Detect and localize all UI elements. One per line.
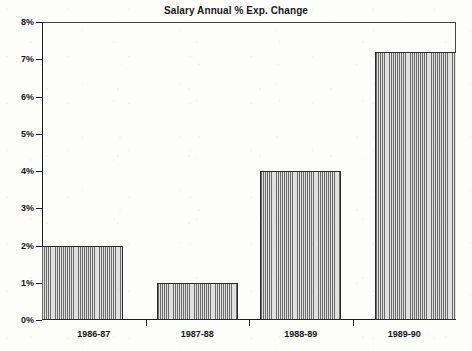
bar-1988-89 bbox=[260, 171, 341, 320]
y-axis-tick bbox=[36, 171, 42, 172]
y-axis-label: 8% bbox=[21, 17, 34, 27]
chart-screenshot: Salary Annual % Exp. Change 0%1%2%3%4%5%… bbox=[0, 0, 472, 351]
y-axis-tick bbox=[36, 320, 42, 321]
chart-title: Salary Annual % Exp. Change bbox=[0, 5, 472, 16]
y-axis-label: 7% bbox=[21, 54, 34, 64]
bar-1986-87 bbox=[42, 246, 123, 321]
y-axis-tick bbox=[36, 134, 42, 135]
y-axis-label: 5% bbox=[21, 129, 34, 139]
plot-area: 0%1%2%3%4%5%6%7%8% 1986-871987-881988-89… bbox=[42, 22, 456, 320]
x-axis-label: 1986-87 bbox=[77, 329, 110, 339]
y-axis-tick bbox=[36, 59, 42, 60]
y-axis-tick bbox=[36, 22, 42, 23]
y-axis-tick bbox=[36, 208, 42, 209]
x-axis-tick bbox=[353, 320, 354, 326]
y-axis-label: 4% bbox=[21, 166, 34, 176]
x-axis-label: 1988-89 bbox=[284, 329, 317, 339]
y-axis-tick bbox=[36, 97, 42, 98]
bar-1989-90 bbox=[375, 52, 456, 320]
x-axis-tick bbox=[249, 320, 250, 326]
bar-1987-88 bbox=[157, 283, 238, 320]
y-axis-label: 2% bbox=[21, 241, 34, 251]
y-axis-label: 3% bbox=[21, 203, 34, 213]
y-axis-label: 0% bbox=[21, 315, 34, 325]
y-axis-label: 6% bbox=[21, 92, 34, 102]
x-axis-tick bbox=[146, 320, 147, 326]
x-axis-label: 1989-90 bbox=[388, 329, 421, 339]
x-axis-label: 1987-88 bbox=[181, 329, 214, 339]
y-axis-label: 1% bbox=[21, 278, 34, 288]
